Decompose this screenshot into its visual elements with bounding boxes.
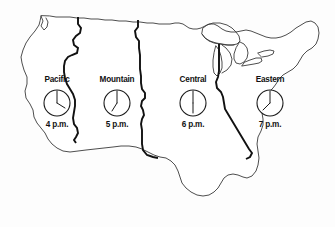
- zone-time-eastern: 7 p.m.: [259, 120, 281, 129]
- time-zone-marker-pacific: Pacific 4 p.m.: [44, 75, 70, 129]
- zone-label-eastern: Eastern: [256, 75, 285, 84]
- zone-time-pacific: 4 p.m.: [46, 120, 68, 129]
- zone-time-central: 6 p.m.: [182, 120, 204, 129]
- zone-label-central: Central: [180, 75, 207, 84]
- zone-label-mountain: Mountain: [100, 75, 135, 84]
- zone-time-mountain: 5 p.m.: [106, 120, 128, 129]
- zone-label-pacific: Pacific: [45, 75, 71, 84]
- time-zone-map-figure: Pacific 4 p.m. Mountain 5 p.m. Central 6…: [0, 0, 335, 227]
- time-zone-marker-eastern: Eastern 7 p.m.: [256, 75, 285, 129]
- time-zone-marker-central: Central 6 p.m.: [180, 75, 207, 129]
- us-time-zone-map-svg: Pacific 4 p.m. Mountain 5 p.m. Central 6…: [0, 0, 335, 227]
